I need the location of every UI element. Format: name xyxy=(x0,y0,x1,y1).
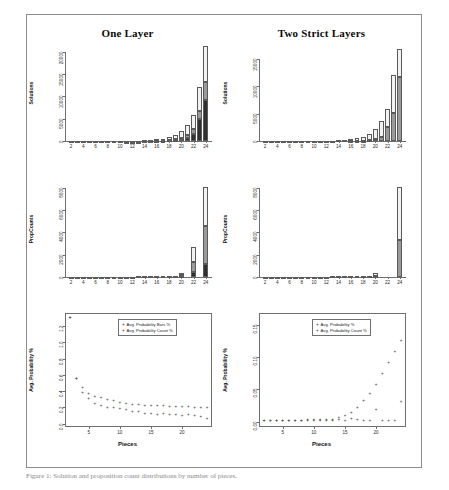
data-point-bottom-left-s0-19 xyxy=(175,406,178,409)
bar-segment-top-white xyxy=(263,277,268,279)
bar-top-left-22 xyxy=(191,115,196,141)
bar-segment-bottom-gray xyxy=(373,139,378,141)
bar-top-right-19 xyxy=(367,134,372,141)
bar-top-right-2 xyxy=(263,141,268,142)
y-tick-label-top-left-2: 10000 xyxy=(59,96,64,116)
bar-segment-bottom-dark xyxy=(191,134,196,141)
bar-top-left-12 xyxy=(130,141,135,142)
data-point-bottom-left-s0-21 xyxy=(187,406,190,409)
bar-mid-right-4 xyxy=(275,277,280,278)
bar-segment-bottom-gray xyxy=(355,141,360,143)
bar-mid-left-14 xyxy=(142,276,147,277)
y-axis-title-mid-left: PropCounts xyxy=(28,199,34,259)
data-point-bottom-left-s0-16 xyxy=(156,405,159,408)
bar-segment-bottom-gray xyxy=(385,127,390,141)
bar-top-left-13 xyxy=(136,141,141,142)
bar-mid-right-7 xyxy=(293,277,298,278)
legend-label: Avg. Probability Count % xyxy=(321,328,367,334)
bar-mid-right-18 xyxy=(361,276,366,277)
bar-mid-left-24 xyxy=(203,187,208,277)
data-point-bottom-right-s1-24 xyxy=(400,401,403,404)
x-tick-label-bottom-right-0: 5 xyxy=(276,430,290,435)
plot-area-top-left: 0500010000150002000024681012141618202224 xyxy=(65,45,212,141)
bar-mid-right-14 xyxy=(336,276,341,277)
bar-mid-right-9 xyxy=(306,277,311,278)
y-tick-label-mid-right-2: 4000 xyxy=(253,232,258,252)
bar-mid-right-17 xyxy=(355,276,360,277)
data-point-bottom-left-s1-6 xyxy=(94,403,97,406)
bar-segment-mid-gray xyxy=(161,140,166,142)
data-point-bottom-right-s1-19 xyxy=(369,420,372,423)
x-tick-label-bottom-right-1: 10 xyxy=(307,430,321,435)
bar-mid-right-13 xyxy=(330,276,335,277)
bar-segment-top-white xyxy=(299,141,304,143)
bar-top-left-17 xyxy=(161,139,166,141)
data-point-bottom-right-s1-8 xyxy=(300,420,303,423)
data-point-bottom-left-s0-15 xyxy=(150,405,153,408)
y-tick-label-mid-left-3: 6000 xyxy=(59,210,64,230)
bar-top-left-24 xyxy=(203,46,208,141)
y-tick-label-top-right-0: 0 xyxy=(253,141,258,161)
bar-segment-top-white xyxy=(336,276,341,278)
bar-mid-left-18 xyxy=(167,276,172,277)
x-tick-bottom-right-2 xyxy=(345,427,346,429)
bar-segment-top-white xyxy=(293,277,298,279)
bar-segment-bottom-gray xyxy=(361,141,366,143)
data-point-bottom-right-s1-14 xyxy=(337,419,340,422)
bar-segment-top-white xyxy=(87,277,92,279)
data-point-bottom-right-s1-21 xyxy=(381,420,384,423)
data-point-bottom-left-s0-14 xyxy=(143,405,146,408)
bar-segment-top-white xyxy=(397,49,402,77)
y-tick-label-top-right-3: 15000 xyxy=(253,58,258,78)
x-tick-label-bottom-left-1: 10 xyxy=(113,430,127,435)
bar-segment-top-white xyxy=(93,141,98,143)
bar-segment-top-white xyxy=(379,121,384,137)
bar-top-left-4 xyxy=(81,141,86,142)
data-point-bottom-left-s1-18 xyxy=(168,414,171,417)
panel-bottom-right: 0.000.050.100.155101520+Avg. Probability… xyxy=(229,303,414,455)
y-axis-title-bottom-right: Avg. Probability % xyxy=(222,340,228,400)
y-tick-label-top-right-1: 5000 xyxy=(253,113,258,133)
panel-top-left: One Layer0500010000150002000024681012141… xyxy=(35,29,220,161)
x-axis-title-bottom-left: Pieces xyxy=(35,441,220,447)
bar-segment-mid-gray xyxy=(197,111,202,119)
plot-area-mid-right: 0200040006000800024681012141618202224 xyxy=(259,181,406,277)
data-point-bottom-right-s1-5 xyxy=(281,420,284,423)
x-tick-mid-left-11 xyxy=(206,277,207,279)
bar-top-right-21 xyxy=(379,121,384,141)
bar-top-right-11 xyxy=(318,141,323,142)
bar-mid-right-12 xyxy=(324,277,329,278)
bar-top-left-10 xyxy=(118,141,123,142)
bar-segment-top-white xyxy=(197,87,202,110)
bar-top-right-16 xyxy=(348,139,353,141)
figure-frame: One Layer0500010000150002000024681012141… xyxy=(26,14,422,468)
panel-top-right: Two Strict Layers05000100001500024681012… xyxy=(229,29,414,161)
bar-segment-top-white xyxy=(105,277,110,279)
y-tick-label-mid-right-4: 8000 xyxy=(253,187,258,207)
bar-segment-top-white xyxy=(348,139,353,141)
y-tick-label-bottom-right-3: 0.15 xyxy=(253,324,258,344)
bar-mid-right-20 xyxy=(373,273,378,277)
data-point-bottom-left-s0-17 xyxy=(162,405,165,408)
bar-segment-top-white xyxy=(130,141,135,143)
x-tick-top-left-10 xyxy=(194,141,195,143)
bar-top-left-21 xyxy=(185,125,190,141)
bar-segment-bottom-gray xyxy=(397,240,402,277)
x-tick-label-bottom-left-3: 20 xyxy=(175,430,189,435)
y-axis-mid-left xyxy=(65,188,66,277)
bar-top-left-19 xyxy=(173,135,178,141)
bar-top-right-23 xyxy=(391,75,396,141)
bar-segment-top-white xyxy=(348,276,353,278)
x-tick-label-top-right-11: 24 xyxy=(393,144,407,149)
bar-segment-top-white xyxy=(306,141,311,143)
bar-mid-left-13 xyxy=(136,276,141,277)
plot-area-top-right: 05000100001500024681012141618202224 xyxy=(259,45,406,141)
data-point-bottom-right-s1-18 xyxy=(362,420,365,423)
bar-segment-bottom-dark xyxy=(185,138,190,141)
bar-segment-top-white xyxy=(148,140,153,142)
data-point-bottom-right-s1-4 xyxy=(275,420,278,423)
bar-mid-left-8 xyxy=(105,277,110,278)
data-point-bottom-left-s1-9 xyxy=(112,407,115,410)
y-axis-top-left xyxy=(65,52,66,141)
bar-segment-top-white xyxy=(269,141,274,143)
